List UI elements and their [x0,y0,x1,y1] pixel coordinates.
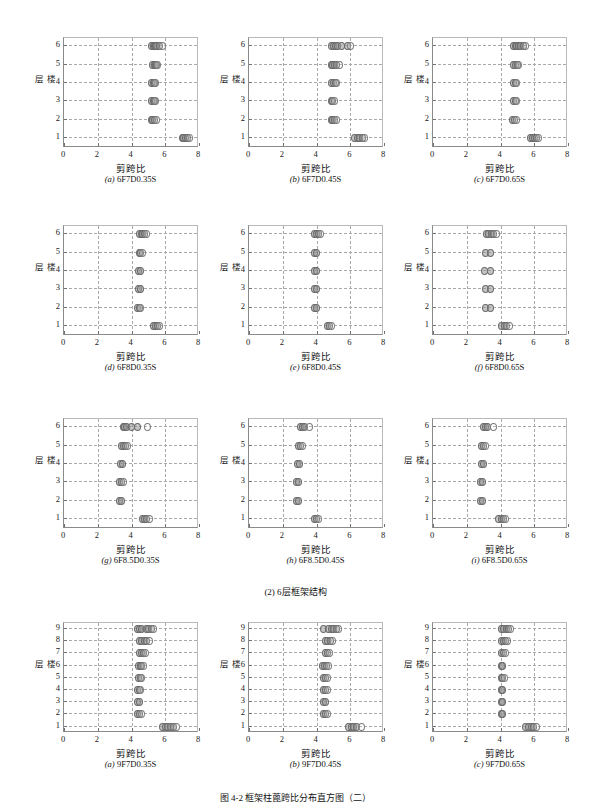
y-tick-mark [249,325,252,326]
y-tick-mark [64,119,67,120]
y-tick-label: 3 [49,476,60,485]
data-point [487,304,494,312]
x-tick-label: 2 [458,531,474,540]
gridline-vertical [132,419,133,527]
y-tick-label: 5 [418,672,429,681]
x-tick-label: 6 [341,735,357,744]
y-tick-label: 7 [234,647,245,656]
x-tick-label: 2 [274,531,290,540]
y-tick-mark [433,45,436,46]
x-axis-label: 剪跨比 [248,542,383,556]
gridline-vertical [98,419,99,527]
x-tick-mark [350,331,351,334]
data-point [137,285,144,293]
x-tick-label: 0 [55,338,71,347]
x-tick-label: 2 [274,735,290,744]
y-tick-mark [64,64,67,65]
gridline-vertical [501,38,502,146]
x-tick-mark [283,524,284,527]
x-tick-label: 8 [190,338,206,347]
data-point [515,61,522,69]
data-point [499,662,506,670]
y-tick-label: 1 [234,320,245,329]
y-tick-label: 6 [418,421,429,430]
figure-sheet: 12345602468楼层剪跨比(a) 6F7D0.35S12345602468… [0,0,591,803]
y-tick-label: 8 [418,635,429,644]
x-tick-label: 8 [559,531,575,540]
data-point [118,497,125,505]
y-tick-mark [433,119,436,120]
x-tick-mark [249,728,250,731]
y-tick-label: 5 [49,59,60,68]
x-axis-label: 剪跨比 [63,542,198,556]
gridline-horizontal [249,640,382,641]
x-tick-mark [467,331,468,334]
y-tick-mark [433,233,436,234]
x-tick-mark [534,331,535,334]
x-tick-mark [534,143,535,146]
axes-box [248,418,383,528]
data-point [313,285,320,293]
y-tick-label: 3 [234,283,245,292]
x-tick-mark [384,331,385,334]
y-tick-label: 8 [49,635,60,644]
x-tick-mark [249,524,250,527]
x-tick-mark [568,728,569,731]
x-tick-label: 6 [156,531,172,540]
gridline-horizontal [249,652,382,653]
y-tick-mark [249,500,252,501]
x-tick-mark [317,728,318,731]
gridline-vertical [467,38,468,146]
y-tick-label: 3 [418,95,429,104]
x-tick-label: 4 [123,531,139,540]
y-tick-mark [433,481,436,482]
y-tick-label: 6 [234,40,245,49]
gridline-vertical [317,226,318,334]
x-tick-mark [132,524,133,527]
y-axis-label: 楼层 [401,75,425,84]
gridline-horizontal [433,463,566,464]
panel-caption: (c) 9F7D0.65S [402,759,591,769]
x-tick-mark [350,143,351,146]
y-tick-mark [64,652,67,653]
x-tick-label: 6 [156,735,172,744]
y-tick-mark [433,726,436,727]
y-tick-label: 9 [418,623,429,632]
y-tick-mark [64,426,67,427]
gridline-vertical [350,38,351,146]
x-tick-mark [98,524,99,527]
gridline-horizontal [249,713,382,714]
x-tick-label: 2 [274,338,290,347]
x-tick-mark [433,524,434,527]
y-tick-mark [433,665,436,666]
data-point [533,723,540,731]
y-tick-mark [64,445,67,446]
y-tick-mark [249,82,252,83]
gridline-horizontal [433,288,566,289]
data-point [479,497,486,505]
data-point [186,134,193,142]
x-tick-mark [199,143,200,146]
y-tick-label: 1 [234,513,245,522]
y-tick-label: 1 [418,320,429,329]
data-point [326,649,333,657]
data-point [138,710,145,718]
figure-caption: 图 4-2 框架柱蓖跨比分布直方图（二） [0,791,591,803]
gridline-horizontal [433,481,566,482]
y-tick-mark [64,82,67,83]
x-tick-mark [199,728,200,731]
y-tick-label: 1 [49,320,60,329]
data-point [295,478,302,486]
x-tick-mark [501,331,502,334]
x-tick-label: 2 [89,735,105,744]
gridline-horizontal [433,137,566,138]
x-tick-label: 6 [525,531,541,540]
x-tick-mark [165,524,166,527]
data-point [313,249,320,257]
y-tick-label: 5 [49,440,60,449]
panel-caption: (a) 9F7D0.35S [33,759,228,769]
y-tick-label: 1 [418,513,429,522]
x-tick-label: 4 [308,338,324,347]
data-point [479,478,486,486]
x-tick-label: 2 [89,531,105,540]
